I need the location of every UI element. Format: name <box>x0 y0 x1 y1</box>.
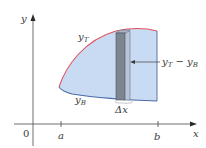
strip-height-label: yT − yB <box>161 56 198 69</box>
shaded-region <box>59 29 157 101</box>
tick-label-b: b <box>154 131 160 142</box>
origin-label: 0 <box>23 128 29 139</box>
approximating-strip <box>116 30 130 100</box>
x-axis-label: x <box>193 128 199 139</box>
delta-x-label: Δx <box>114 104 128 115</box>
x-axis-arrow-icon <box>190 122 197 127</box>
strip-front-face <box>116 33 125 100</box>
y-axis-label: y <box>20 13 27 24</box>
y-axis-arrow-icon <box>31 14 36 21</box>
top-curve-label: yT <box>77 31 90 44</box>
area-between-curves-diagram: y x 0 a b yT yB Δx yT − yB <box>0 0 206 148</box>
tick-label-a: a <box>58 130 64 141</box>
